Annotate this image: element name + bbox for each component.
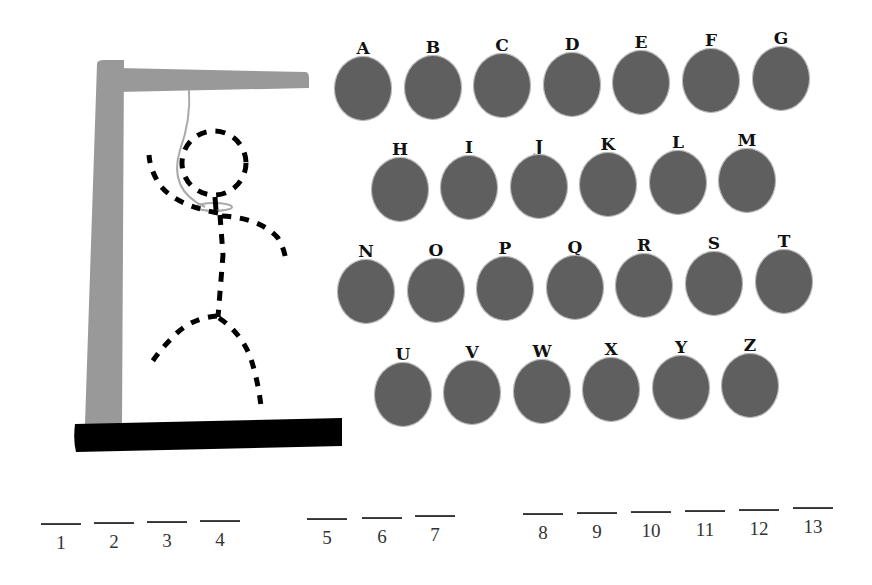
blank-number: 8 bbox=[523, 523, 563, 543]
letter-button-y[interactable]: Y bbox=[652, 339, 710, 419]
blank-number: 11 bbox=[685, 520, 725, 540]
letter-button-w[interactable]: W bbox=[513, 343, 571, 423]
letter-button-f[interactable]: F bbox=[682, 32, 740, 112]
blank-number: 7 bbox=[415, 525, 455, 545]
blank-number: 9 bbox=[577, 522, 617, 542]
letter-button-u[interactable]: U bbox=[374, 346, 432, 426]
letter-circle[interactable] bbox=[513, 359, 571, 424]
letter-circle[interactable] bbox=[755, 249, 813, 314]
letter-button-q[interactable]: Q bbox=[546, 239, 604, 319]
letter-label: S bbox=[685, 235, 743, 252]
letter-label: Q bbox=[546, 239, 604, 256]
noose-icon bbox=[196, 203, 232, 211]
letter-button-o[interactable]: O bbox=[407, 242, 465, 322]
letter-circle[interactable] bbox=[721, 353, 779, 418]
letter-button-p[interactable]: P bbox=[476, 240, 534, 320]
gallows-base bbox=[74, 418, 342, 452]
letter-label: Y bbox=[652, 339, 710, 356]
letter-circle[interactable] bbox=[543, 52, 601, 117]
word-blank-9: 9 bbox=[577, 512, 617, 546]
word-blank-4: 4 bbox=[200, 520, 240, 554]
blank-line bbox=[362, 517, 402, 519]
letter-circle[interactable] bbox=[510, 154, 568, 219]
letter-circle[interactable] bbox=[476, 256, 534, 321]
letter-label: Z bbox=[721, 337, 779, 354]
letter-label: U bbox=[374, 346, 432, 363]
blank-line bbox=[415, 515, 455, 517]
letter-label: K bbox=[579, 136, 637, 153]
word-blank-3: 3 bbox=[147, 521, 187, 555]
blank-number: 4 bbox=[200, 530, 240, 550]
letter-button-l[interactable]: L bbox=[649, 134, 707, 214]
letter-circle[interactable] bbox=[407, 258, 465, 323]
letter-circle[interactable] bbox=[579, 152, 637, 217]
letter-button-v[interactable]: V bbox=[443, 344, 501, 424]
letter-circle[interactable] bbox=[615, 253, 673, 318]
letter-circle[interactable] bbox=[682, 48, 740, 113]
letter-circle[interactable] bbox=[718, 148, 776, 213]
letter-button-n[interactable]: N bbox=[337, 243, 395, 323]
letter-button-b[interactable]: B bbox=[404, 39, 462, 119]
blank-line bbox=[147, 521, 187, 523]
letter-circle[interactable] bbox=[752, 46, 810, 111]
letter-label: T bbox=[755, 233, 813, 250]
figure-body bbox=[218, 215, 223, 317]
letter-circle[interactable] bbox=[440, 155, 498, 220]
letter-circle[interactable] bbox=[374, 362, 432, 427]
letter-label: W bbox=[513, 343, 571, 360]
letter-button-h[interactable]: H bbox=[371, 141, 429, 221]
letter-button-z[interactable]: Z bbox=[721, 337, 779, 417]
blank-line bbox=[631, 511, 671, 513]
letter-button-i[interactable]: I bbox=[440, 139, 498, 219]
letter-circle[interactable] bbox=[612, 50, 670, 115]
word-blank-11: 11 bbox=[685, 510, 725, 544]
letter-circle[interactable] bbox=[652, 355, 710, 420]
word-blank-1: 1 bbox=[41, 523, 81, 557]
word-blank-13: 13 bbox=[793, 507, 833, 541]
letter-button-d[interactable]: D bbox=[543, 36, 601, 116]
blank-number: 12 bbox=[739, 519, 779, 539]
letter-button-e[interactable]: E bbox=[612, 34, 670, 114]
word-blank-12: 12 bbox=[739, 509, 779, 543]
letter-circle[interactable] bbox=[404, 55, 462, 120]
letter-button-t[interactable]: T bbox=[755, 233, 813, 313]
letter-button-r[interactable]: R bbox=[615, 237, 673, 317]
letter-label: X bbox=[582, 341, 640, 358]
letter-circle[interactable] bbox=[649, 150, 707, 215]
letter-label: O bbox=[407, 242, 465, 259]
letter-button-x[interactable]: X bbox=[582, 341, 640, 421]
letter-button-k[interactable]: K bbox=[579, 136, 637, 216]
word-blank-2: 2 bbox=[94, 522, 134, 556]
letter-button-j[interactable]: J bbox=[510, 138, 568, 218]
letter-label: G bbox=[752, 30, 810, 47]
word-blank-10: 10 bbox=[631, 511, 671, 545]
letter-label: B bbox=[404, 39, 462, 56]
letter-label: I bbox=[440, 139, 498, 156]
letter-label: E bbox=[612, 34, 670, 51]
letter-circle[interactable] bbox=[546, 255, 604, 320]
blank-line bbox=[94, 522, 134, 524]
letter-circle[interactable] bbox=[337, 259, 395, 324]
letter-circle[interactable] bbox=[582, 357, 640, 422]
letter-circle[interactable] bbox=[371, 157, 429, 222]
letter-button-a[interactable]: A bbox=[334, 40, 392, 120]
letter-circle[interactable] bbox=[473, 53, 531, 118]
letter-button-c[interactable]: C bbox=[473, 37, 531, 117]
letter-label: C bbox=[473, 37, 531, 54]
blank-line bbox=[307, 518, 347, 520]
blank-line bbox=[793, 507, 833, 509]
letter-circle[interactable] bbox=[443, 360, 501, 425]
blank-line bbox=[523, 513, 563, 515]
letter-circle[interactable] bbox=[685, 251, 743, 316]
letter-button-m[interactable]: M bbox=[718, 132, 776, 212]
letter-button-s[interactable]: S bbox=[685, 235, 743, 315]
letter-label: H bbox=[371, 141, 429, 158]
blank-number: 10 bbox=[631, 521, 671, 541]
figure-left-arm bbox=[149, 155, 218, 213]
letter-circle[interactable] bbox=[334, 56, 392, 121]
blank-number: 1 bbox=[41, 533, 81, 553]
blank-line bbox=[41, 523, 81, 525]
letter-button-g[interactable]: G bbox=[752, 30, 810, 110]
hangman-game: A B C D E F G H I J K L bbox=[0, 0, 872, 585]
letter-label: N bbox=[337, 243, 395, 260]
